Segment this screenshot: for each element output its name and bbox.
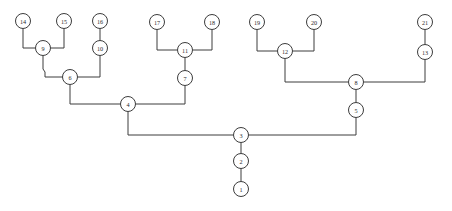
tree-node-14[interactable]: 14 <box>16 14 31 29</box>
node-label-15: 15 <box>61 18 67 25</box>
tree-edge-9-15 <box>51 29 65 49</box>
tree-edge-8-12 <box>285 59 349 83</box>
tree-node-4[interactable]: 4 <box>121 97 136 112</box>
node-label-3: 3 <box>239 132 242 139</box>
tree-node-20[interactable]: 20 <box>307 15 322 30</box>
tree-edge-11-18 <box>193 30 213 51</box>
node-label-16: 16 <box>97 18 103 25</box>
tree-node-19[interactable]: 19 <box>250 15 265 30</box>
node-label-4: 4 <box>126 101 129 108</box>
tree-node-17[interactable]: 17 <box>150 15 165 30</box>
node-label-6: 6 <box>68 74 71 81</box>
tree-node-16[interactable]: 16 <box>93 14 108 29</box>
node-label-7: 7 <box>183 75 186 82</box>
node-label-14: 14 <box>20 18 26 25</box>
tree-node-7[interactable]: 7 <box>178 71 193 86</box>
node-label-12: 12 <box>282 48 288 55</box>
node-label-21: 21 <box>422 19 428 26</box>
tree-node-8[interactable]: 8 <box>349 75 364 90</box>
tree-edge-12-19 <box>257 30 278 52</box>
node-label-20: 20 <box>311 19 317 26</box>
tree-node-13[interactable]: 13 <box>418 45 433 60</box>
tree-node-6[interactable]: 6 <box>63 70 78 85</box>
tree-node-12[interactable]: 12 <box>278 44 293 59</box>
node-label-1: 1 <box>239 186 242 193</box>
tree-edge-9-14 <box>23 29 36 49</box>
tree-edge-4-6 <box>70 85 128 105</box>
node-label-11: 11 <box>182 47 188 54</box>
tree-edge-12-20 <box>293 30 315 52</box>
tree-edge-6-10 <box>78 56 101 78</box>
nodes-layer: 123456789101112131415161718192021 <box>16 14 433 197</box>
tree-edge-3-4 <box>128 112 234 136</box>
tree-edge-8-13 <box>364 60 426 83</box>
tree-edge-4-7 <box>136 86 186 105</box>
node-label-18: 18 <box>209 19 215 26</box>
node-label-5: 5 <box>354 107 357 114</box>
tree-edge-11-17 <box>157 30 178 51</box>
edges-layer <box>23 29 425 182</box>
tree-node-18[interactable]: 18 <box>205 15 220 30</box>
tree-node-5[interactable]: 5 <box>349 103 364 118</box>
node-label-10: 10 <box>97 45 103 52</box>
tree-node-9[interactable]: 9 <box>36 41 51 56</box>
tree-edge-3-5 <box>249 118 357 136</box>
tree-node-2[interactable]: 2 <box>234 154 249 169</box>
node-label-9: 9 <box>41 45 44 52</box>
tree-diagram-svg: 123456789101112131415161718192021 <box>0 0 452 211</box>
tree-node-15[interactable]: 15 <box>57 14 72 29</box>
node-label-2: 2 <box>239 158 242 165</box>
tree-node-21[interactable]: 21 <box>418 15 433 30</box>
tree-node-11[interactable]: 11 <box>178 43 193 58</box>
node-label-17: 17 <box>154 19 160 26</box>
tree-node-1[interactable]: 1 <box>234 182 249 197</box>
node-label-8: 8 <box>354 79 357 86</box>
node-label-19: 19 <box>254 19 260 26</box>
node-label-13: 13 <box>422 49 428 56</box>
tree-diagram-canvas: 123456789101112131415161718192021 <box>0 0 452 211</box>
tree-node-3[interactable]: 3 <box>234 128 249 143</box>
tree-node-10[interactable]: 10 <box>93 41 108 56</box>
